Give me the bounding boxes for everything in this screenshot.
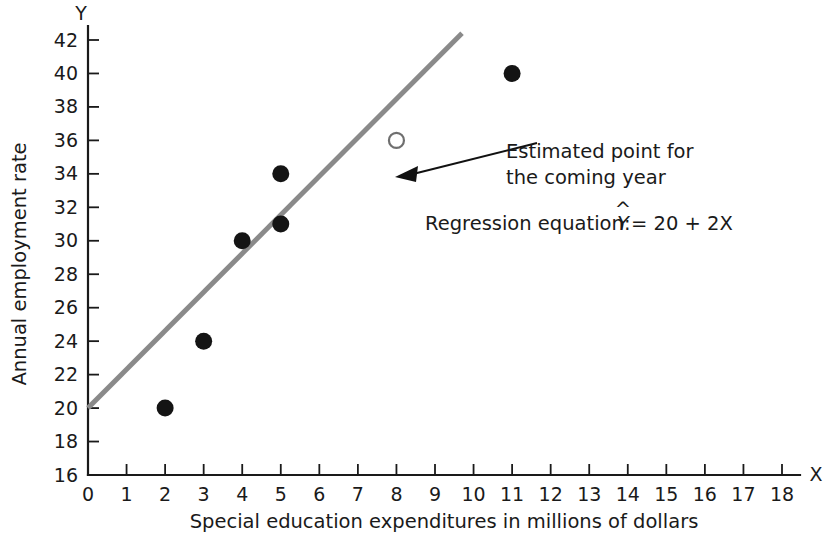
x-tick-label: 15 [654, 483, 678, 505]
x-tick-label: 10 [461, 483, 485, 505]
regression-equation-annotation: Regression equation: Y ^ = 20 + 2X [425, 198, 733, 235]
x-axis-letter: X [809, 463, 822, 485]
y-tick-label: 16 [54, 464, 78, 486]
data-point [504, 65, 521, 82]
x-tick-label: 17 [731, 483, 755, 505]
y-tick-group: 1618202224262830323436384042 [54, 29, 99, 486]
x-tick-label: 13 [577, 483, 601, 505]
data-point-group [157, 65, 521, 417]
y-tick-label: 20 [54, 397, 78, 419]
scatter-chart-figure: Y X 1618202224262830323436384042 0123456… [0, 0, 833, 546]
x-tick-label: 11 [500, 483, 524, 505]
x-tick-label: 16 [693, 483, 717, 505]
estimated-point-annotation-line2: the coming year [506, 166, 667, 189]
x-tick-label: 3 [198, 483, 210, 505]
y-tick-label: 36 [54, 129, 78, 151]
x-tick-label: 7 [352, 483, 364, 505]
x-tick-label: 9 [429, 483, 441, 505]
y-tick-label: 40 [54, 62, 78, 84]
x-tick-label: 0 [82, 483, 94, 505]
y-tick-label: 42 [54, 29, 78, 51]
y-tick-label: 22 [54, 363, 78, 385]
y-tick-label: 18 [54, 430, 78, 452]
y-tick-label: 30 [54, 229, 78, 251]
x-axis-title: Special education expenditures in millio… [190, 510, 699, 533]
y-tick-label: 26 [54, 296, 78, 318]
y-tick-label: 34 [54, 162, 78, 184]
data-point [157, 400, 174, 417]
data-point [272, 216, 289, 233]
x-tick-label: 18 [770, 483, 794, 505]
y-tick-label: 28 [54, 263, 78, 285]
x-tick-group: 0123456789101112131415161718 [82, 464, 794, 505]
axes-group [88, 26, 800, 475]
data-point [195, 333, 212, 350]
regression-equation-prefix: Regression equation: [425, 212, 630, 235]
x-tick-label: 14 [616, 483, 640, 505]
x-tick-label: 8 [390, 483, 402, 505]
x-tick-label: 2 [159, 483, 171, 505]
regression-equation-suffix: = 20 + 2X [631, 212, 733, 235]
y-axis-title: Annual employment rate [8, 142, 31, 385]
regression-equation-hat-icon: ^ [615, 198, 631, 221]
x-tick-label: 1 [121, 483, 133, 505]
y-tick-label: 38 [54, 95, 78, 117]
estimated-point-group [389, 133, 404, 148]
estimated-data-point [389, 133, 404, 148]
y-tick-label: 24 [54, 330, 78, 352]
estimated-point-annotation-line1: Estimated point for [506, 140, 694, 163]
arrowhead-icon [395, 166, 418, 182]
data-point [234, 232, 251, 249]
x-tick-label: 5 [275, 483, 287, 505]
chart-canvas: Y X 1618202224262830323436384042 0123456… [0, 0, 833, 546]
data-point [272, 165, 289, 182]
y-tick-label: 32 [54, 196, 78, 218]
y-axis-letter: Y [74, 2, 87, 24]
x-tick-label: 6 [313, 483, 325, 505]
x-tick-label: 4 [236, 483, 248, 505]
x-tick-label: 12 [539, 483, 563, 505]
